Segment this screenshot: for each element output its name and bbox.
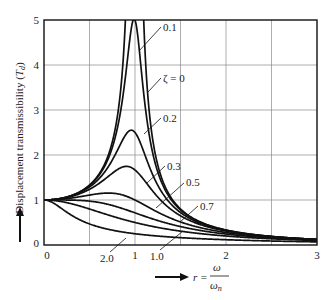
curve-label: 2.0 [100,252,114,264]
curve-label: 0.2 [163,112,177,124]
y-tick-label: 4 [34,59,40,71]
curve-label: ζ = 0 [163,72,185,85]
y-tick-label: 1 [34,194,40,206]
curve-label: 0.7 [200,200,214,212]
y-tick-labels: 012345 [34,14,40,249]
x-tick-label: 2 [223,249,229,261]
svg-text:ω: ω [213,261,221,273]
x-tick-label: 3 [314,249,320,261]
y-tick-label: 3 [34,104,40,116]
y-tick-label: 0 [34,237,40,249]
y-tick-label: 5 [34,14,40,26]
x-tick-labels: 0123 [44,249,320,261]
x-tick-label: 1 [132,249,138,261]
curve-label: 0.5 [186,176,200,188]
x-tick-label: 0 [44,249,50,261]
curve-label: 1.0 [150,250,164,262]
leader-line [148,78,161,92]
curve-label: 0.3 [167,160,181,172]
transmissibility-chart: 0123 012345 0.1ζ = 00.20.30.50.71.02.0 D… [0,0,334,300]
x-axis-arrow-icon [155,273,189,281]
y-tick-label: 2 [34,149,40,161]
gridlines [44,20,317,245]
svg-text:r =: r = [193,271,207,283]
x-axis-label: r = ω ωn [193,261,229,293]
leader-line [139,27,161,51]
curve-label: 0.1 [163,21,177,33]
y-axis-label: Displacement transmissibility (Td) [13,62,27,214]
svg-text:Displacement transmissibility: Displacement transmissibility (Td) [13,62,27,214]
leader-line [160,231,183,250]
svg-text:ωn: ωn [210,279,222,293]
